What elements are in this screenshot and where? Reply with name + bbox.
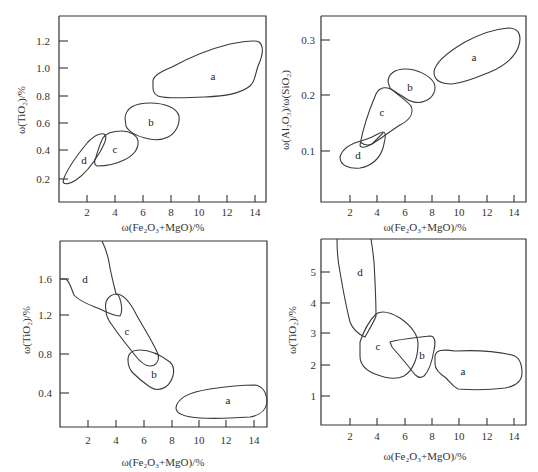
y-tick-label: 1.6: [38, 273, 52, 285]
y-tick-label: 0.6: [36, 117, 50, 129]
x-tick-label: 6: [141, 434, 147, 446]
x-tick-label: 4: [374, 206, 380, 218]
y-tick-label: 0.2: [301, 89, 315, 101]
y-tick-label: 5: [311, 266, 317, 278]
region-a: [153, 41, 262, 98]
region-label-a: a: [461, 365, 466, 377]
y-tick-label: 0.8: [36, 90, 50, 102]
region-label-c: c: [113, 143, 118, 155]
panel-tio2-vs-fe2o3-mgo-bottom-right: 5 4 3 2 1 2 4 6 8 10 12 14 ω(Fe₂O₃+MgO)/…: [286, 239, 526, 463]
region-b: [390, 336, 435, 377]
y-ticks: [321, 272, 330, 396]
region-label-c: c: [380, 106, 385, 118]
x-tick-label: 8: [429, 206, 435, 218]
y-tick-label: 4: [311, 297, 317, 309]
region-a: [434, 28, 520, 84]
x-tick-labels: 2 4 6 8 10 12 14: [84, 206, 261, 218]
y-axis-label: ω(Al₂O₃)/ω(SiO₂): [279, 70, 292, 150]
x-ticks: [87, 195, 255, 202]
y-tick-labels: 5 4 3 2 1: [311, 266, 317, 402]
y-tick-label: 0.4: [38, 387, 52, 399]
y-tick-label: 0.3: [301, 34, 315, 46]
x-tick-label: 2: [347, 430, 353, 442]
x-ticks: [350, 195, 514, 202]
y-ticks: [59, 41, 68, 179]
x-tick-label: 12: [482, 206, 493, 218]
region-label-d: d: [82, 273, 88, 285]
y-tick-label: 2: [311, 359, 317, 371]
x-tick-label: 6: [402, 430, 408, 442]
x-tick-label: 2: [347, 206, 353, 218]
region-a: [435, 350, 522, 390]
x-tick-label: 4: [374, 430, 380, 442]
y-tick-labels: 0.3 0.2 0.1: [301, 34, 315, 157]
region-label-b: b: [407, 81, 413, 93]
panel-tio2-vs-fe2o3-mgo-top-left: 1.2 1.0 0.8 0.6 0.4 0.2 2 4 6 8 10 12 14…: [15, 16, 266, 234]
plot-frame: [321, 239, 526, 425]
region-label-b: b: [419, 349, 425, 361]
x-tick-label: 10: [194, 206, 206, 218]
y-tick-label: 1.2: [36, 35, 50, 47]
x-axis-label: ω(Fe₂O₃+MgO)/%: [122, 221, 205, 234]
plot-frame: [60, 241, 267, 427]
y-tick-label: 3: [311, 327, 317, 339]
region-d: [337, 239, 376, 337]
x-tick-label: 12: [221, 434, 232, 446]
x-tick-label: 10: [454, 430, 466, 442]
plot-frame: [59, 16, 266, 202]
y-tick-label: 1: [311, 390, 317, 402]
x-tick-labels: 2 4 6 8 10 12 14: [347, 430, 520, 442]
panel-al2o3-sio2-vs-fe2o3-mgo-top-right: 0.3 0.2 0.1 2 4 6 8 10 12 14 ω(Fe₂O₃+MgO…: [279, 16, 526, 234]
x-tick-label: 10: [194, 434, 206, 446]
region-c: [105, 294, 158, 366]
region-label-c: c: [376, 340, 381, 352]
x-tick-label: 4: [112, 206, 118, 218]
x-tick-label: 8: [169, 434, 175, 446]
region-label-c: c: [125, 325, 130, 337]
y-axis-label: ω(TiO₂)/%: [20, 306, 33, 354]
x-axis-label: ω(Fe₂O₃+MgO)/%: [384, 450, 467, 463]
x-tick-label: 2: [84, 206, 90, 218]
x-tick-label: 14: [509, 206, 521, 218]
y-ticks: [60, 279, 69, 393]
region-label-a: a: [472, 51, 477, 63]
x-ticks: [88, 420, 254, 427]
y-tick-labels: 1.6 1.2 0.8 0.4: [38, 273, 52, 399]
x-tick-label: 12: [482, 430, 493, 442]
x-tick-label: 8: [429, 430, 435, 442]
y-tick-label: 1.2: [38, 309, 52, 321]
region-d: [60, 241, 122, 316]
x-tick-label: 2: [85, 434, 91, 446]
region-a: [176, 385, 267, 418]
region-label-b: b: [151, 368, 157, 380]
x-tick-label: 12: [222, 206, 233, 218]
region-label-a: a: [211, 70, 216, 82]
panel-tio2-vs-fe2o3-mgo-bottom-left: 1.6 1.2 0.8 0.4 2 4 6 8 10 12 14 ω(Fe₂O₃…: [20, 241, 267, 469]
x-tick-label: 8: [168, 206, 174, 218]
y-tick-label: 1.0: [36, 62, 50, 74]
x-tick-label: 6: [140, 206, 146, 218]
figure: 1.2 1.0 0.8 0.6 0.4 0.2 2 4 6 8 10 12 14…: [0, 0, 538, 472]
x-tick-label: 4: [113, 434, 119, 446]
x-axis-label: ω(Fe₂O₃+MgO)/%: [122, 456, 205, 469]
x-tick-label: 10: [454, 206, 466, 218]
region-label-d: d: [355, 149, 361, 161]
y-tick-label: 0.4: [36, 144, 50, 156]
y-axis-label: ω(TiO₂)/%: [15, 86, 28, 134]
x-tick-label: 14: [509, 430, 521, 442]
region-label-a: a: [226, 394, 231, 406]
x-ticks: [350, 418, 514, 425]
y-axis-label: ω(TiO₂)/%: [286, 306, 299, 354]
region-label-d: d: [81, 154, 87, 166]
plot-frame: [321, 16, 526, 202]
x-tick-label: 14: [250, 206, 262, 218]
y-ticks: [321, 40, 330, 151]
x-tick-label: 6: [402, 206, 408, 218]
x-tick-label: 14: [249, 434, 261, 446]
x-tick-labels: 2 4 6 8 10 12 14: [85, 434, 260, 446]
region-label-d: d: [357, 266, 363, 278]
x-tick-labels: 2 4 6 8 10 12 14: [347, 206, 520, 218]
region-label-b: b: [148, 116, 154, 128]
x-axis-label: ω(Fe₂O₃+MgO)/%: [384, 221, 467, 234]
y-tick-label: 0.1: [301, 145, 315, 157]
